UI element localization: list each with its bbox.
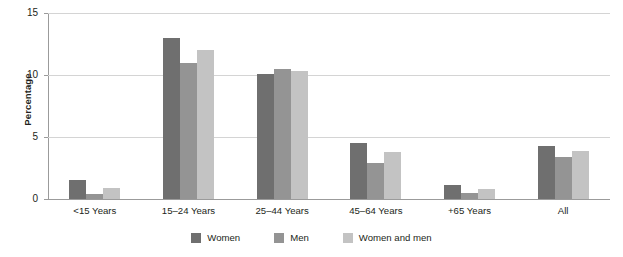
legend-item[interactable]: Women and men: [343, 232, 432, 243]
bar: [384, 152, 401, 199]
bar: [350, 143, 367, 199]
bar: [86, 194, 103, 199]
legend-label: Women and men: [359, 232, 432, 243]
bar: [367, 163, 384, 199]
bar: [555, 157, 572, 199]
bar: [291, 71, 308, 199]
y-tick-mark-0: [44, 199, 48, 200]
y-tick-label: 15: [4, 7, 38, 18]
legend-swatch-icon: [191, 233, 201, 243]
legend-item[interactable]: Women: [191, 232, 240, 243]
bar: [180, 63, 197, 199]
bar: [69, 180, 86, 199]
x-tick-label: All: [503, 205, 623, 216]
bar: [274, 69, 291, 199]
bar: [257, 74, 274, 199]
legend: WomenMenWomen and men: [0, 232, 623, 243]
grouped-bar-chart: Percentage 051015 <15 Years15–24 Years25…: [0, 0, 623, 257]
legend-item[interactable]: Men: [274, 232, 309, 243]
legend-label: Men: [290, 232, 309, 243]
y-tick-label: 5: [4, 131, 38, 142]
legend-swatch-icon: [274, 233, 284, 243]
y-tick-label: 10: [4, 69, 38, 80]
bar: [444, 185, 461, 199]
bar: [461, 193, 478, 199]
bar: [572, 151, 589, 199]
legend-label: Women: [207, 232, 240, 243]
legend-swatch-icon: [343, 233, 353, 243]
bar: [478, 189, 495, 199]
bar: [197, 50, 214, 199]
y-tick-label: 0: [4, 193, 38, 204]
x-axis-line: [48, 199, 610, 200]
bar: [163, 38, 180, 199]
bar: [103, 188, 120, 199]
bar: [538, 146, 555, 199]
bars-layer: [48, 13, 610, 199]
